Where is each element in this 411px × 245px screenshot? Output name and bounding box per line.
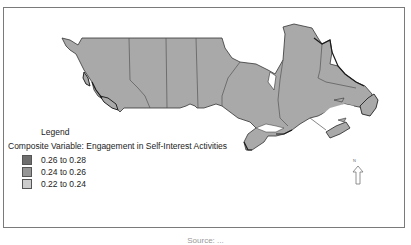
pei xyxy=(338,118,346,122)
swatch-dark xyxy=(22,155,32,165)
legend-item-label: 0.24 to 0.26 xyxy=(41,167,86,177)
swatch-medium xyxy=(22,167,32,177)
legend-item-label: 0.26 to 0.28 xyxy=(41,155,86,165)
legend-item: 0.26 to 0.28 xyxy=(22,155,86,165)
legend-variable: Composite Variable: Engagement in Self-I… xyxy=(8,141,227,151)
legend-item: 0.22 to 0.24 xyxy=(22,179,86,189)
legend-item: 0.24 to 0.26 xyxy=(22,167,86,177)
north-arrow-icon xyxy=(352,165,364,185)
north-label: N xyxy=(353,158,356,163)
swatch-light xyxy=(22,179,32,189)
nova-scotia xyxy=(326,122,350,138)
legend-item-label: 0.22 to 0.24 xyxy=(41,179,86,189)
legend-title: Legend xyxy=(41,127,69,137)
map-caption: Source: ... xyxy=(0,236,411,245)
